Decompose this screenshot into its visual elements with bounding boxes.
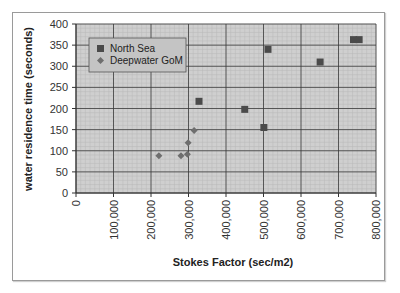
- scatter-chart: 050100150200250300350400 0100,000200,000…: [0, 0, 400, 293]
- x-tick-label: 500,000: [258, 200, 270, 240]
- legend-label-deepwater-gom: Deepwater GoM: [110, 55, 183, 66]
- y-tick-label: 250: [50, 81, 68, 93]
- y-tick-label: 350: [50, 39, 68, 51]
- x-tick-label: 600,000: [295, 200, 307, 240]
- y-tick-label: 0: [62, 187, 68, 199]
- y-tick-label: 400: [50, 18, 68, 30]
- square-marker: [196, 98, 203, 105]
- x-axis-tick-labels: 0100,000200,000300,000400,000500,000600,…: [70, 200, 382, 240]
- y-axis-label: water residence time (seconds): [22, 27, 34, 192]
- square-marker: [265, 46, 272, 53]
- x-tick-label: 100,000: [108, 200, 120, 240]
- x-tick-label: 300,000: [183, 200, 195, 240]
- y-axis-tick-labels: 050100150200250300350400: [50, 18, 68, 199]
- y-tick-label: 200: [50, 103, 68, 115]
- square-marker: [356, 36, 363, 43]
- x-tick-label: 400,000: [220, 200, 232, 240]
- legend: North Sea Deepwater GoM: [89, 38, 186, 72]
- legend-label-north-sea: North Sea: [110, 43, 155, 54]
- x-tick-label: 0: [70, 200, 82, 206]
- square-marker: [260, 124, 267, 131]
- square-marker: [317, 59, 324, 66]
- y-tick-label: 300: [50, 60, 68, 72]
- x-tick-label: 800,000: [370, 200, 382, 240]
- x-axis-label: Stokes Factor (sec/m2): [173, 256, 294, 268]
- square-marker-icon: [97, 45, 104, 52]
- y-tick-label: 150: [50, 124, 68, 136]
- x-tick-label: 700,000: [333, 200, 345, 240]
- y-tick-label: 50: [56, 166, 68, 178]
- square-marker: [241, 106, 248, 113]
- x-tick-label: 200,000: [145, 200, 157, 240]
- y-tick-label: 100: [50, 145, 68, 157]
